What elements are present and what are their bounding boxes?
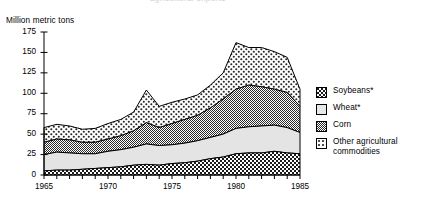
legend-corn[interactable]: Corn: [316, 120, 432, 132]
y-tick-label: 150: [10, 47, 36, 56]
x-tick-label: 1965: [24, 182, 64, 191]
stacked-area-svg: [0, 28, 312, 180]
y-axis-title: Million metric tons: [6, 16, 74, 25]
legend-other[interactable]: Other agriculturalcommodities: [316, 137, 432, 157]
legend-soybeans[interactable]: Soybeans*: [316, 86, 432, 98]
legend-wheat[interactable]: Wheat*: [316, 103, 432, 115]
legend-label: Soybeans*: [333, 86, 374, 96]
x-tick-label: 1980: [216, 182, 256, 191]
plot-area: [0, 28, 312, 180]
legend-label: Wheat*: [333, 103, 360, 113]
chart-legend: Soybeans*Wheat*CornOther agriculturalcom…: [316, 86, 432, 163]
area-bands: [44, 43, 300, 175]
y-tick-label: 100: [10, 88, 36, 97]
legend-label: Other agriculturalcommodities: [333, 137, 398, 157]
y-tick-label: 25: [10, 149, 36, 158]
legend-label: Corn: [333, 120, 351, 130]
y-tick-label: 125: [10, 67, 36, 76]
legend-swatch-dark-checker: [316, 87, 327, 98]
legend-swatch-plain-light: [316, 104, 327, 115]
legend-label-line2: commodities: [333, 147, 398, 157]
y-tick-label: 50: [10, 129, 36, 138]
y-tick-label: 175: [10, 27, 36, 36]
x-tick-label: 1975: [152, 182, 192, 191]
x-tick-label: 1985: [280, 182, 320, 191]
legend-swatch-dense-dark: [316, 121, 327, 132]
x-tick-label: 1970: [88, 182, 128, 191]
legend-swatch-light-dots: [316, 138, 327, 149]
y-tick-label: 75: [10, 108, 36, 117]
chart-figure: agricultural exports Million metric tons: [0, 0, 432, 209]
clipped-title-text: agricultural exports: [150, 0, 310, 4]
y-tick-label: 0: [10, 170, 36, 179]
